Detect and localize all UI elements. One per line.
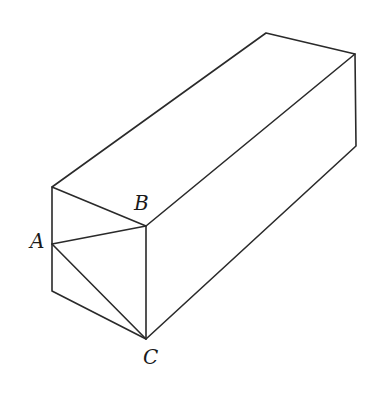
front-face — [52, 187, 146, 339]
prism-drawing — [0, 0, 372, 394]
label-C: C — [143, 347, 158, 367]
label-A: A — [30, 231, 44, 251]
edge-AC — [52, 244, 146, 339]
edge-AB — [52, 226, 146, 244]
diagram-canvas: A B C — [0, 0, 372, 394]
label-B: B — [134, 193, 149, 213]
top-face-edges — [52, 33, 355, 226]
